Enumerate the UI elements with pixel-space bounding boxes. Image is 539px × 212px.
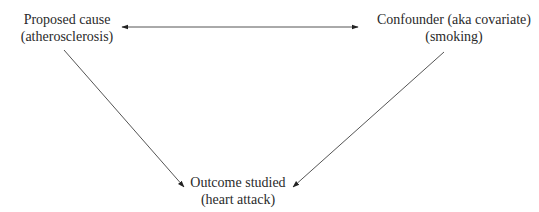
node-confounder-example: (smoking) (368, 28, 539, 45)
node-outcome-title: Outcome studied (186, 174, 290, 191)
node-confounder-title: Confounder (aka covariate) (368, 11, 539, 28)
node-confounder: Confounder (aka covariate) (smoking) (368, 11, 539, 45)
node-outcome-studied: Outcome studied (heart attack) (186, 174, 290, 208)
node-outcome-example: (heart attack) (186, 191, 290, 208)
edge-confounder-to-outcome-arrow (293, 52, 444, 187)
edge-cause-to-outcome-arrow (64, 50, 184, 187)
node-proposed-cause-example: (atherosclerosis) (0, 28, 134, 45)
node-proposed-cause: Proposed cause (atherosclerosis) (0, 11, 134, 45)
node-proposed-cause-title: Proposed cause (0, 11, 134, 28)
causal-diagram: Proposed cause (atherosclerosis) Confoun… (0, 0, 539, 212)
